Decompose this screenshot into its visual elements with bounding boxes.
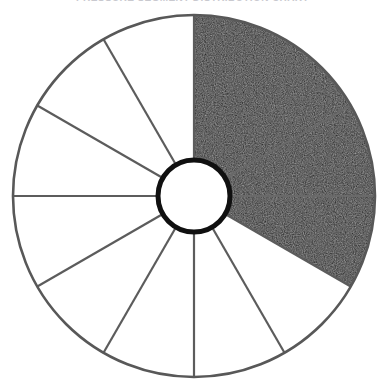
filled-sector-grain-overlay xyxy=(194,15,375,287)
filled-sector-group xyxy=(194,15,375,287)
wheel-diagram-figure: PRESSURE SEGMENT DISTRIBUTION CHART xyxy=(0,0,385,391)
segment-wheel xyxy=(0,0,385,391)
center-hub xyxy=(158,160,230,232)
